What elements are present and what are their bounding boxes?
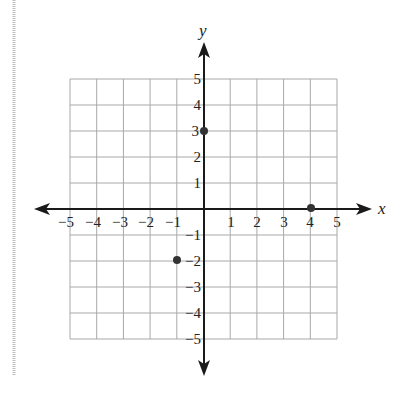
y-tick-label: 5 xyxy=(194,71,202,87)
y-axis-label: y xyxy=(197,21,207,40)
x-tick-label: −1 xyxy=(165,214,181,230)
x-tick-label: 5 xyxy=(333,214,341,230)
y-tick-label: 3 xyxy=(192,123,200,139)
x-tick-label: 3 xyxy=(280,214,288,230)
coordinate-plane-figure: x y −5 −4 −3 −2 −1 1 2 3 4 5 5 4 3 2 1 −… xyxy=(0,0,404,394)
point-4-0 xyxy=(307,204,315,212)
x-tick-label: −4 xyxy=(85,214,101,230)
y-tick-label: −5 xyxy=(185,331,201,347)
x-tick-label: 4 xyxy=(306,214,314,230)
y-tick-label: 1 xyxy=(194,175,202,191)
y-tick-label: 2 xyxy=(194,149,202,165)
x-tick-label: 2 xyxy=(253,214,261,230)
point-neg1-neg2 xyxy=(173,256,181,264)
plotted-points xyxy=(173,127,315,264)
y-tick-label: 4 xyxy=(194,97,202,113)
point-0-3 xyxy=(200,127,208,135)
x-tick-label: 1 xyxy=(227,214,235,230)
x-tick-label: −2 xyxy=(138,214,154,230)
x-axis-label: x xyxy=(377,199,386,218)
x-tick-label: −5 xyxy=(58,214,74,230)
y-tick-label: −2 xyxy=(185,253,201,269)
y-tick-label: −1 xyxy=(185,227,201,243)
y-tick-label: −4 xyxy=(185,305,201,321)
y-tick-label: −3 xyxy=(185,279,201,295)
x-tick-label: −3 xyxy=(112,214,128,230)
